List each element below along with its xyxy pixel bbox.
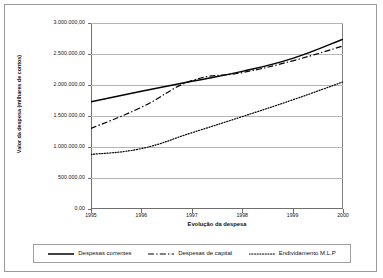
x-tick-label: 1999 [273,212,313,218]
y-tick-label: 1.500.000,00 [23,113,85,118]
chart-plot-region: 0,00500.000,001.000.000,001.500.000,002.… [5,5,378,227]
legend-swatch-solid-icon [48,251,74,257]
y-tick-label: 500.000,00 [23,175,85,180]
series-line [91,82,343,155]
y-tick-label: 2.500.000,00 [23,51,85,56]
y-axis-title: Valor da despesa (milhares de contos) [16,24,22,184]
y-tick-label: 2.000.000,00 [23,82,85,87]
y-tick-label: 0,00 [23,206,85,211]
y-tick-label: 1.000.000,00 [23,144,85,149]
legend-item: Endividamento M.L.P [249,250,336,257]
legend-swatch-dotted-icon [249,251,275,257]
x-tick-label: 1995 [71,212,111,218]
legend-item: Despesas de capital [148,250,232,257]
x-tick-label: 1997 [172,212,212,218]
y-tick-label: 3.000.000,00 [23,20,85,25]
legend-item: Despesas correntes [48,250,131,257]
x-tick-label: 1996 [121,212,161,218]
legend-swatch-dash-dot-icon [148,251,174,257]
x-axis-title: Evolução da despesa [91,221,343,228]
legend-label: Despesas de capital [178,250,232,257]
x-tick-label: 2000 [323,212,363,218]
chart-legend: Despesas correntesDespesas de capitalEnd… [33,244,351,263]
series-line [91,46,343,128]
series-line [91,39,343,102]
x-tick-label: 1998 [222,212,262,218]
series-lines [91,23,343,209]
legend-label: Despesas correntes [78,250,131,257]
legend-label: Endividamento M.L.P [279,250,336,257]
chart-frame: 0,00500.000,001.000.000,001.500.000,002.… [4,4,377,272]
